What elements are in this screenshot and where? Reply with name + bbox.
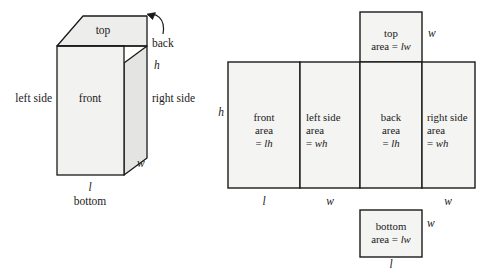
back-arrow-head-icon bbox=[147, 13, 156, 20]
net-dim-right-side-width: w bbox=[444, 195, 452, 207]
net-panel-top-area-expr: lw bbox=[401, 40, 412, 52]
net-dim-bottom-length: l bbox=[389, 258, 392, 270]
prism-front-face bbox=[57, 46, 124, 175]
net-panel-top-area: area = lw bbox=[371, 40, 411, 52]
net-panel-bottom-area: area = lw bbox=[371, 233, 411, 245]
net-panel-back-label: back bbox=[381, 111, 402, 123]
prism-dim-height: h bbox=[154, 59, 160, 71]
net-panel-top-area-word: area = bbox=[371, 40, 400, 52]
net-panel-front-label: front bbox=[254, 111, 275, 123]
net-panel-back-area-expr: = lh bbox=[382, 137, 399, 149]
geometry-figure: top back h left side front right side w … bbox=[0, 0, 483, 271]
prism-label-bottom: bottom bbox=[74, 195, 107, 207]
net-dim-front-length: l bbox=[262, 195, 265, 207]
prism-label-left-side: left side bbox=[15, 92, 52, 104]
net-dim-top-right-width: w bbox=[428, 27, 436, 39]
net-panel-front-area-word: area bbox=[255, 124, 273, 136]
net-panel-front-area-expr: = lh bbox=[255, 137, 272, 149]
prism-right-face bbox=[124, 46, 147, 175]
figure-canvas: top back h left side front right side w … bbox=[0, 0, 483, 271]
net-panel-right-side-area-word: area bbox=[427, 124, 445, 136]
prism-label-back: back bbox=[152, 37, 174, 49]
net-dim-bottom-right-width: w bbox=[427, 217, 435, 229]
prism-label-front: front bbox=[79, 92, 102, 104]
net-panel-right-side-label: right side bbox=[427, 111, 468, 123]
prism-label-right-side: right side bbox=[152, 92, 195, 105]
net-panel-left-side-area-word: area bbox=[306, 124, 324, 136]
net-panel-back-area-word: area bbox=[382, 124, 400, 136]
net-panel-bottom-label: bottom bbox=[376, 220, 407, 232]
prism-dim-length: l bbox=[88, 181, 91, 193]
prism-dim-width: w bbox=[137, 157, 145, 169]
net-panel-left-side-label: left side bbox=[306, 111, 341, 123]
net-group: top area = lw front area = lh left side … bbox=[218, 12, 475, 270]
net-panel-left-side-area-expr: = wh bbox=[306, 137, 327, 149]
net-panel-right-side-area-expr: = wh bbox=[427, 137, 448, 149]
net-panel-top-label: top bbox=[384, 27, 398, 39]
net-dim-left-side-width: w bbox=[326, 195, 334, 207]
prism-label-top: top bbox=[96, 24, 111, 37]
net-dim-left-height: h bbox=[218, 106, 224, 118]
prism-group: top back h left side front right side w … bbox=[15, 13, 195, 207]
